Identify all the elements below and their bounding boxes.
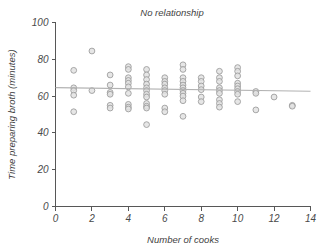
scatter-plot-figure: No relationship 020406080100 02468101214…	[0, 0, 323, 252]
x-axis-title: Number of cooks	[147, 234, 219, 245]
data-point	[144, 105, 150, 111]
y-tick-label: 20	[36, 164, 49, 175]
y-tick-label: 60	[37, 91, 49, 102]
data-point	[217, 90, 223, 96]
y-tick-label: 80	[37, 54, 49, 65]
data-point	[235, 91, 241, 97]
data-point	[217, 104, 223, 110]
data-point	[125, 106, 131, 112]
data-point	[235, 73, 241, 79]
x-tick-label: 6	[162, 213, 168, 224]
data-point	[144, 67, 150, 73]
data-point	[180, 113, 186, 119]
x-tick-label: 10	[232, 213, 244, 224]
data-point	[71, 67, 77, 73]
x-tick-label: 12	[269, 213, 281, 224]
x-tick-label: 8	[198, 213, 204, 224]
data-point	[144, 122, 150, 128]
data-point	[125, 67, 131, 73]
data-point	[289, 103, 295, 109]
data-point	[125, 90, 131, 96]
x-axis: 02468101214	[53, 207, 317, 224]
y-axis: 020406080100	[32, 17, 56, 212]
plot-canvas: No relationship 020406080100 02468101214…	[0, 0, 323, 252]
x-tick-label: 2	[88, 213, 95, 224]
axis-titles-group: Number of cooksTime preparing broth (min…	[6, 49, 219, 245]
chart-title: No relationship	[140, 7, 203, 18]
data-point	[107, 91, 113, 97]
data-point	[71, 109, 77, 115]
y-tick-label: 100	[32, 17, 49, 28]
data-point	[107, 72, 113, 78]
x-tick-label: 4	[126, 213, 132, 224]
chart-title-group: No relationship	[140, 7, 203, 18]
data-point	[89, 48, 95, 54]
data-point	[180, 67, 186, 73]
y-axis-title: Time preparing broth (minutes)	[6, 49, 17, 179]
data-point	[235, 99, 241, 105]
data-point	[144, 94, 150, 100]
data-point	[180, 98, 186, 104]
y-tick-label: 40	[37, 127, 49, 138]
data-point	[162, 109, 168, 115]
data-point	[253, 90, 259, 96]
data-point	[107, 82, 113, 88]
data-point	[71, 92, 77, 98]
data-point	[253, 107, 259, 113]
data-point	[198, 99, 204, 105]
data-point	[217, 68, 223, 74]
data-point	[271, 94, 277, 100]
data-point	[217, 78, 223, 84]
y-tick-label: 0	[43, 201, 49, 212]
x-tick-label: 14	[305, 213, 317, 224]
x-tick-label: 0	[53, 213, 59, 224]
data-point	[107, 105, 113, 111]
data-point	[162, 91, 168, 97]
